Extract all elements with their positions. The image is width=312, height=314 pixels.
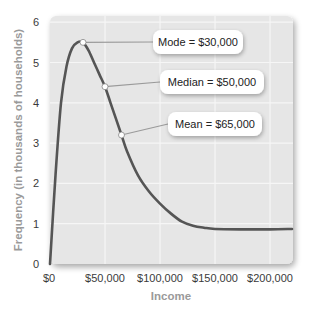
x-tick-label: $150,000	[192, 272, 238, 284]
callout-point	[80, 39, 86, 45]
x-axis-ticks: $0$50,000$100,000$150,000$200,000	[43, 272, 293, 284]
y-tick-label: 1	[33, 218, 39, 230]
x-axis-title: Income	[151, 290, 191, 302]
callout-point	[119, 132, 125, 138]
y-axis-title: Frequency (in thousands of households)	[12, 29, 24, 252]
y-tick-label: 6	[33, 16, 39, 28]
x-tick-label: $100,000	[137, 272, 183, 284]
y-tick-label: 2	[33, 177, 39, 189]
callout-label: Mean = $65,000	[175, 118, 255, 130]
callout-point	[102, 84, 108, 90]
x-tick-label: $0	[43, 272, 55, 284]
y-tick-label: 0	[33, 258, 39, 270]
income-distribution-chart: 0123456 $0$50,000$100,000$150,000$200,00…	[0, 0, 312, 314]
y-tick-label: 5	[33, 57, 39, 69]
x-tick-label: $50,000	[85, 272, 125, 284]
x-tick-label: $200,000	[247, 272, 293, 284]
callout-label: Median = $50,000	[168, 76, 256, 88]
y-tick-label: 3	[33, 137, 39, 149]
y-axis-ticks: 0123456	[33, 16, 39, 270]
y-tick-label: 4	[33, 97, 39, 109]
callout-label: Mode = $30,000	[158, 36, 238, 48]
